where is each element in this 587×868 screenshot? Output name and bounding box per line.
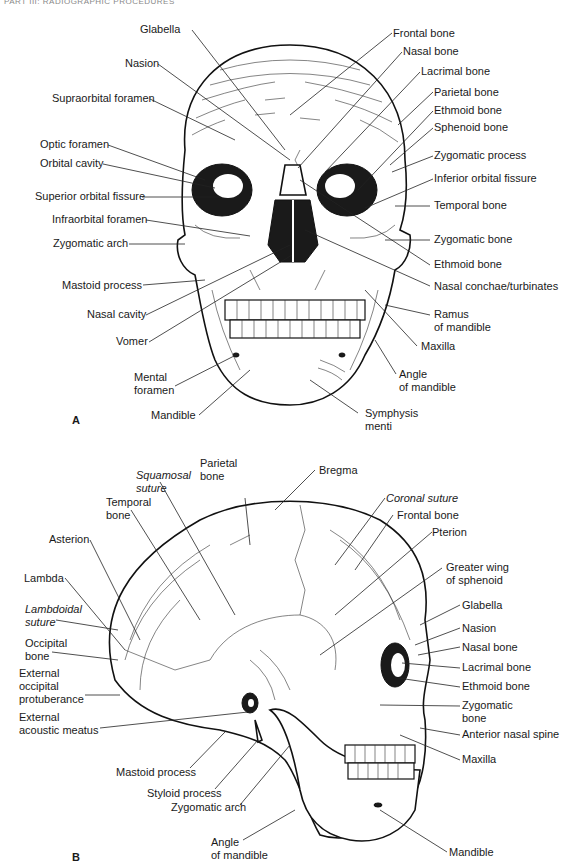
label-angle-of-mandible-b: Angle of mandible <box>211 836 268 862</box>
label-zygomatic-bone-b: Zygomatic bone <box>462 699 513 725</box>
label-ethmoid-bone-b: Ethmoid bone <box>462 680 530 693</box>
label-anterior-nasal-spine: Anterior nasal spine <box>462 728 559 741</box>
label-zygomatic-bone-a: Zygomatic bone <box>434 233 512 246</box>
label-coronal-suture: Coronal suture <box>386 492 458 505</box>
label-lambda: Lambda <box>24 572 64 585</box>
label-lambdoidal-suture: Lambdoidal suture <box>25 603 82 629</box>
label-sphenoid-bone: Sphenoid bone <box>434 121 508 134</box>
label-nasal-cavity: Nasal cavity <box>87 308 146 321</box>
label-orbital-cavity: Orbital cavity <box>40 157 104 170</box>
label-ethmoid-bone-a1: Ethmoid bone <box>434 104 502 117</box>
label-nasion-b: Nasion <box>462 622 496 635</box>
label-frontal-bone-b: Frontal bone <box>397 509 459 522</box>
label-lacrimal-bone-a: Lacrimal bone <box>421 65 490 78</box>
label-ramus-of-mandible: Ramus of mandible <box>434 308 491 334</box>
label-lacrimal-bone-b: Lacrimal bone <box>462 661 531 674</box>
label-nasal-bone-a: Nasal bone <box>403 45 459 58</box>
label-maxilla-a: Maxilla <box>421 340 455 353</box>
label-maxilla-b: Maxilla <box>462 753 496 766</box>
upper-teeth <box>225 300 365 320</box>
label-asterion: Asterion <box>49 533 89 546</box>
panel-b-letter: B <box>72 851 80 863</box>
label-zygomatic-arch-b: Zygomatic arch <box>171 801 246 814</box>
label-nasal-bone-b: Nasal bone <box>462 641 518 654</box>
label-ethmoid-bone-a2: Ethmoid bone <box>434 258 502 271</box>
label-glabella-b: Glabella <box>462 599 502 612</box>
label-zygomatic-arch-a: Zygomatic arch <box>53 237 128 250</box>
label-zygomatic-process: Zygomatic process <box>434 149 526 162</box>
panel-a-letter: A <box>72 414 80 426</box>
lower-teeth <box>230 320 360 338</box>
label-mandible-a: Mandible <box>151 409 196 422</box>
label-nasion: Nasion <box>125 57 159 70</box>
label-mental-foramen: Mental foramen <box>134 371 174 397</box>
label-angle-of-mandible-a: Angle of mandible <box>399 368 456 394</box>
label-mastoid-process-b: Mastoid process <box>116 766 196 779</box>
label-inferior-orbital-fissure: Inferior orbital fissure <box>434 172 537 185</box>
label-symphysis-menti: Symphysis menti <box>365 407 418 433</box>
label-glabella: Glabella <box>140 23 180 36</box>
label-parietal-bone-a: Parietal bone <box>434 86 499 99</box>
lateral-teeth <box>345 745 415 779</box>
label-temporal-bone-b: Temporal bone <box>106 496 151 522</box>
label-mandible-b: Mandible <box>449 846 494 859</box>
label-pterion: Pterion <box>432 526 467 539</box>
label-parietal-bone-b: Parietal bone <box>200 457 237 483</box>
label-supraorbital-foramen: Supraorbital foramen <box>52 92 155 105</box>
label-squamosal-suture: Squamosal suture <box>136 469 191 495</box>
label-mastoid-process-a: Mastoid process <box>62 279 142 292</box>
label-frontal-bone-a: Frontal bone <box>393 27 455 40</box>
label-external-occipital-protuberance: External occipital protuberance <box>19 667 84 706</box>
label-styloid-process: Styloid process <box>147 787 222 800</box>
label-nasal-conchae: Nasal conchae/turbinates <box>434 280 558 293</box>
frontal-skull-drawing <box>177 45 410 405</box>
label-vomer: Vomer <box>116 335 148 348</box>
label-occipital-bone: Occipital bone <box>25 637 67 663</box>
label-superior-orbital-fissure: Superior orbital fissure <box>35 190 145 203</box>
label-infraorbital-foramen: Infraorbital foramen <box>52 213 147 226</box>
label-greater-wing-of-sphenoid: Greater wing of sphenoid <box>446 561 509 587</box>
label-optic-foramen: Optic foramen <box>40 138 109 151</box>
label-external-acoustic-meatus: External acoustic meatus <box>19 711 98 737</box>
label-bregma: Bregma <box>319 464 358 477</box>
label-temporal-bone-a: Temporal bone <box>434 199 507 212</box>
